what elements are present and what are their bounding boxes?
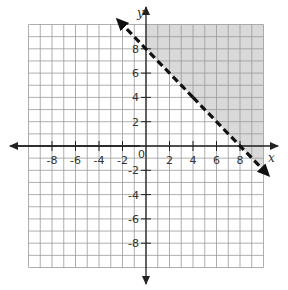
x-tick-label: 2 — [166, 154, 173, 167]
x-tick-label: 4 — [190, 154, 197, 167]
y-tick-label: -8 — [128, 237, 139, 250]
x-tick-label: 6 — [213, 154, 220, 167]
coordinate-plane: -8-6-4-224688642-2-4-6-8 x y 0 — [0, 0, 288, 290]
y-tick-label: 6 — [132, 67, 139, 80]
x-tick-label: -6 — [70, 154, 81, 167]
x-tick-label: -8 — [47, 154, 58, 167]
x-tick-label: -4 — [94, 154, 105, 167]
y-tick-label: 8 — [132, 43, 139, 56]
x-tick-label: 8 — [237, 154, 244, 167]
y-tick-label: 2 — [132, 116, 139, 129]
x-axis-label: x — [268, 151, 275, 165]
y-tick-label: -2 — [128, 164, 139, 177]
y-tick-label: 4 — [132, 91, 139, 104]
y-tick-label: -4 — [128, 189, 139, 202]
y-tick-label: -6 — [128, 213, 139, 226]
origin-label: 0 — [138, 148, 145, 161]
y-axis-label: y — [136, 6, 144, 20]
x-tick-label: -2 — [117, 154, 128, 167]
